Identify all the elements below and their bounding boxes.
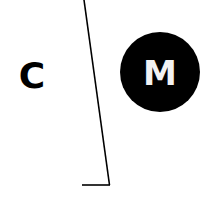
left-letter-c: C (19, 55, 45, 96)
circle-badge: M (120, 32, 200, 112)
diagram-canvas: C M (0, 0, 211, 199)
circle-letter-m: M (143, 53, 177, 93)
slanted-divider-line (82, 0, 110, 185)
